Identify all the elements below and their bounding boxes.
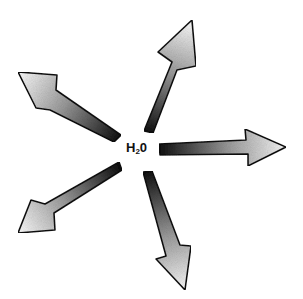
arrow-up-left [18,72,121,142]
water-diffusion-diagram: H20 [0,0,303,299]
water-molecule-label: H20 [126,140,147,156]
arrow-down-left [18,162,122,233]
label-h: H [126,140,135,155]
arrow-up-right [144,20,196,133]
label-o: 0 [140,140,147,155]
arrow-right [159,129,286,166]
arrow-down-right [143,171,191,290]
arrows-canvas [0,0,303,299]
